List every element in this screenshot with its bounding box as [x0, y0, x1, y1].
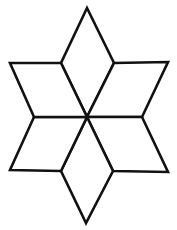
figure-canvas	[0, 0, 177, 230]
six-pointed-star-figure	[0, 0, 177, 230]
